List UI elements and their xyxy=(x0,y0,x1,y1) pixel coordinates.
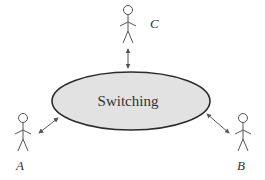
person-b-label: B xyxy=(237,158,245,173)
person-a-label: A xyxy=(15,158,24,173)
person-b-icon xyxy=(235,114,251,152)
double-arrow-icon xyxy=(39,118,58,133)
switching-diagram: Switching C A B xyxy=(0,0,265,180)
link-a-switching xyxy=(39,118,58,133)
link-b-switching xyxy=(207,114,229,133)
double-arrow-icon xyxy=(207,114,229,133)
switching-node: Switching xyxy=(52,72,210,130)
person-c-icon xyxy=(120,6,136,44)
person-c-label: C xyxy=(150,16,159,31)
switching-label: Switching xyxy=(98,93,159,109)
person-a-icon xyxy=(15,114,31,152)
